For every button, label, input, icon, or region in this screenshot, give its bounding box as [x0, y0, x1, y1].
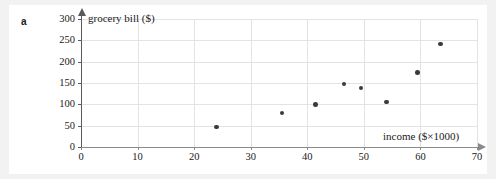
x-axis-tick [307, 147, 308, 150]
x-axis-tick [194, 147, 195, 150]
x-axis-tick-label: 60 [415, 152, 426, 163]
plot-area [81, 19, 477, 147]
x-axis-tick [251, 147, 252, 150]
y-axis-tick [78, 62, 81, 63]
x-axis-tick-label: 10 [132, 152, 143, 163]
x-axis-line [81, 147, 479, 148]
x-axis-tick-label: 70 [472, 152, 483, 163]
y-axis-tick-label: 250 [59, 35, 75, 46]
y-axis-tick [78, 147, 81, 148]
y-axis-tick-label: 50 [65, 120, 76, 131]
gridline-horizontal [81, 40, 477, 41]
y-axis-tick-label: 100 [59, 99, 75, 110]
gridline-horizontal [81, 104, 477, 105]
y-axis-arrow-icon [78, 8, 86, 16]
data-point [313, 102, 318, 107]
data-point [438, 42, 443, 47]
y-axis-tick [78, 40, 81, 41]
x-axis-tick [81, 147, 82, 150]
x-axis-tick-label: 20 [189, 152, 200, 163]
scatter-plot-figure: a 010203040506070 050100150200250300 gro… [0, 0, 496, 179]
x-axis-tick-label: 30 [245, 152, 256, 163]
x-axis-tick [138, 147, 139, 150]
x-axis-tick-label: 40 [302, 152, 313, 163]
y-axis-tick [78, 126, 81, 127]
x-axis-tick [477, 147, 478, 150]
gridline-vertical [477, 19, 478, 147]
x-axis-tick-label: 0 [78, 152, 83, 163]
x-axis-tick [420, 147, 421, 150]
y-axis-tick [78, 104, 81, 105]
y-axis-tick-label: 300 [59, 14, 75, 25]
data-point [415, 70, 420, 75]
y-axis-tick-label: 0 [70, 142, 75, 153]
y-axis-ticks: 050100150200250300 [40, 0, 75, 179]
y-axis-tick-label: 200 [59, 56, 75, 67]
x-axis-tick-label: 50 [359, 152, 370, 163]
gridline-horizontal [81, 126, 477, 127]
y-axis-tick-label: 150 [59, 78, 75, 89]
y-axis-tick [78, 19, 81, 20]
x-axis-title: income ($×1000) [383, 131, 459, 142]
y-axis-line [81, 14, 82, 147]
gridline-horizontal [81, 83, 477, 84]
y-axis-title: grocery bill ($) [88, 13, 155, 24]
scatter-chart: 010203040506070 050100150200250300 groce… [0, 0, 496, 179]
gridline-horizontal [81, 62, 477, 63]
x-axis-tick [364, 147, 365, 150]
y-axis-tick [78, 83, 81, 84]
